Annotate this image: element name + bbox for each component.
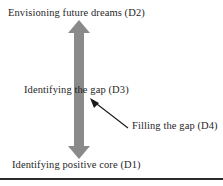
- label-envisioning-future-dreams: Envisioning future dreams (D2): [8, 7, 145, 19]
- bottom-divider: [0, 178, 223, 180]
- label-identifying-positive-core: Identifying positive core (D1): [12, 159, 141, 171]
- label-filling-the-gap: Filling the gap (D4): [132, 120, 218, 132]
- label-identifying-the-gap: Identifying the gap (D3): [24, 84, 129, 96]
- diagram-figure: Envisioning future dreams (D2) Identifyi…: [0, 0, 223, 186]
- pointer-line-icon: [86, 95, 134, 133]
